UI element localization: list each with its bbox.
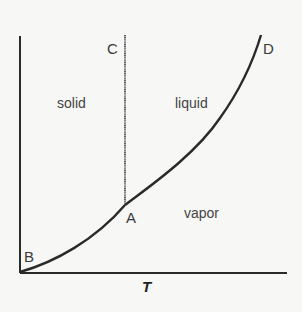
x-axis-label: T: [142, 279, 151, 294]
phase-diagram: [0, 0, 302, 312]
point-label-c: C: [107, 41, 118, 56]
sublimation-curve-BA: [20, 205, 125, 272]
point-label-a: A: [126, 210, 136, 225]
point-label-d: D: [263, 41, 274, 56]
vaporization-curve-AD: [125, 35, 261, 205]
point-label-b: B: [24, 249, 34, 264]
region-label-vapor: vapor: [184, 206, 219, 220]
region-label-solid: solid: [57, 96, 86, 110]
region-label-liquid: liquid: [175, 96, 208, 110]
